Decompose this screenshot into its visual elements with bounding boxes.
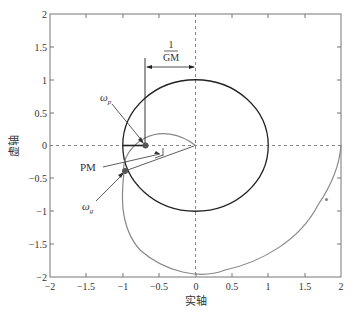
pm-arrowhead-icon (154, 151, 160, 154)
svg-text:−1: −1 (36, 206, 47, 217)
svg-text:−0.5: −0.5 (150, 281, 168, 292)
svg-text:0: 0 (42, 140, 47, 151)
pm-label: PM (80, 161, 96, 173)
omega-g-label: ωg (82, 200, 94, 215)
omega-g-arrow (96, 174, 123, 201)
gm-denominator: GM (163, 52, 179, 63)
gm-arrow-left-icon (146, 65, 152, 69)
svg-text:−1: −1 (118, 281, 129, 292)
svg-text:0.5: 0.5 (226, 281, 239, 292)
nyquist-curve (122, 134, 341, 275)
svg-text:0: 0 (194, 281, 199, 292)
svg-text:2: 2 (339, 281, 344, 292)
svg-text:−0.5: −0.5 (29, 173, 47, 184)
curve-direction-marker (325, 198, 328, 201)
x-axis-label: 实轴 (185, 294, 207, 307)
y-tick-labels: 2 1.5 1 0.5 0 −0.5 −1 −1.5 −2 (29, 9, 47, 283)
omega-p-point (143, 143, 149, 149)
y-axis-label: 虚轴 (7, 135, 20, 157)
svg-text:1.5: 1.5 (35, 42, 48, 53)
svg-text:1.5: 1.5 (299, 281, 312, 292)
omega-g-point (122, 168, 128, 174)
nyquist-chart: 1 GM ωp PM ωg −2 −1.5 −1 −0.5 0 0.5 1 1.… (0, 0, 357, 315)
pm-radius-line (125, 146, 194, 171)
omega-p-label: ωp (100, 91, 112, 106)
svg-text:1: 1 (266, 281, 271, 292)
svg-text:−1.5: −1.5 (29, 239, 47, 250)
gm-numerator: 1 (169, 39, 174, 50)
omega-p-arrowhead-icon (138, 137, 144, 144)
omega-p-arrow (112, 104, 143, 142)
svg-text:0.5: 0.5 (35, 108, 48, 119)
svg-text:−2: −2 (36, 272, 47, 283)
x-tick-labels: −2 −1.5 −1 −0.5 0 0.5 1 1.5 2 (45, 281, 344, 292)
svg-text:−1.5: −1.5 (77, 281, 95, 292)
pm-leader-line (103, 154, 160, 167)
svg-text:1: 1 (42, 75, 47, 86)
gm-arrow-right-icon (189, 65, 195, 69)
svg-text:2: 2 (42, 9, 47, 20)
